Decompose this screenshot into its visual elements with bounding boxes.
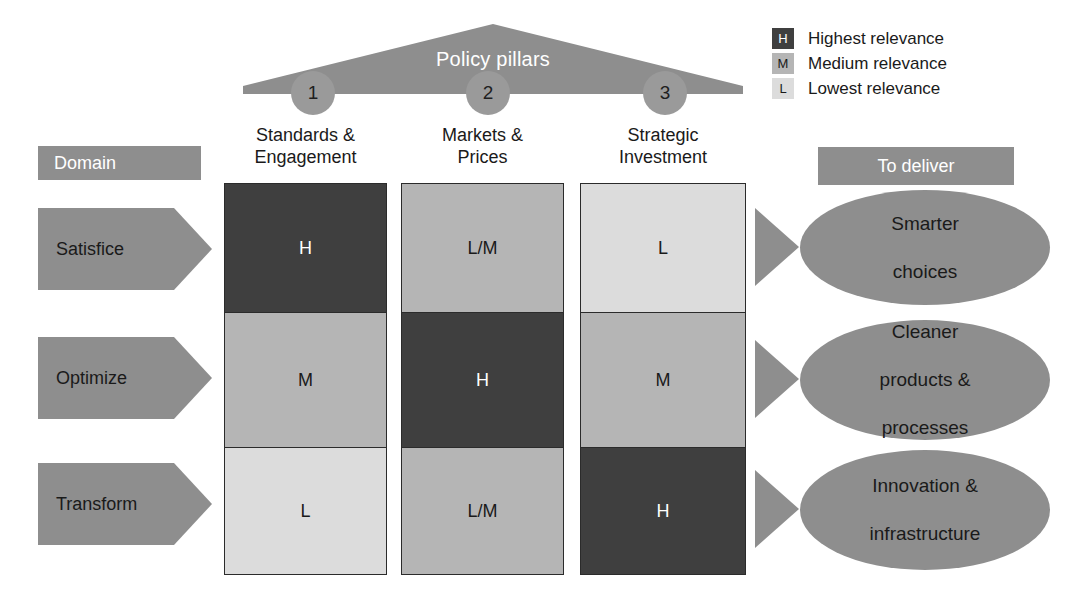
- column-header-line2: Prices: [401, 146, 564, 168]
- legend-label-medium: Medium relevance: [808, 54, 947, 74]
- matrix-cell-optimize-standards[interactable]: M: [225, 312, 386, 447]
- outcome-line1: Smarter: [863, 212, 987, 236]
- pillar-marker-3-label: 3: [660, 82, 671, 104]
- matrix-cell-value: H: [657, 501, 670, 522]
- legend-swatch-low: L: [772, 78, 794, 99]
- matrix-cell-optimize-markets[interactable]: H: [402, 312, 563, 447]
- outcome-line2: infrastructure: [842, 522, 1009, 546]
- pillar-marker-1[interactable]: 1: [291, 71, 335, 115]
- legend-key-high: H: [778, 31, 787, 46]
- flow-arrow-transform: [755, 470, 799, 548]
- relevance-legend: H Highest relevance M Medium relevance L…: [772, 26, 947, 101]
- outcome-text: Smarter choices: [835, 212, 1015, 284]
- column-header-line1: Strategic: [580, 124, 746, 146]
- domain-chevron-transform[interactable]: Transform: [38, 463, 212, 545]
- matrix-cell-value: L: [300, 501, 310, 522]
- column-header-line1: Standards &: [224, 124, 387, 146]
- matrix-cell-transform-strategic[interactable]: H: [581, 447, 745, 574]
- pillar-marker-2-label: 2: [483, 82, 494, 104]
- triangle-right-icon: [755, 340, 799, 418]
- outcome-text: Innovation & infrastructure: [814, 474, 1037, 546]
- flow-arrow-satisfice: [755, 208, 799, 286]
- legend-item-low: L Lowest relevance: [772, 76, 947, 101]
- outcome-cleaner-products-processes[interactable]: Cleaner products & processes: [800, 320, 1050, 440]
- legend-key-low: L: [779, 81, 786, 96]
- legend-item-high: H Highest relevance: [772, 26, 947, 51]
- matrix-cell-value: L/M: [467, 238, 497, 259]
- outcome-line3: processes: [852, 416, 999, 440]
- column-header-strategic-investment: Strategic Investment: [580, 124, 746, 168]
- domain-chevron-optimize[interactable]: Optimize: [38, 337, 212, 419]
- outcome-line2: products &: [852, 368, 999, 392]
- domain-header-label: Domain: [54, 153, 116, 174]
- outcome-innovation-infrastructure[interactable]: Innovation & infrastructure: [800, 450, 1050, 570]
- outcome-smarter-choices[interactable]: Smarter choices: [800, 190, 1050, 305]
- diagram-canvas: Policy pillars 1 2 3 H Highest relevance…: [0, 0, 1075, 599]
- triangle-right-icon: [755, 470, 799, 548]
- matrix-cell-value: L/M: [467, 501, 497, 522]
- legend-key-medium: M: [778, 56, 789, 71]
- flow-arrow-optimize: [755, 340, 799, 418]
- matrix-cell-value: H: [299, 238, 312, 259]
- matrix-cell-value: L: [658, 238, 668, 259]
- domain-header-bar: Domain: [38, 146, 201, 180]
- domain-chevron-satisfice[interactable]: Satisfice: [38, 208, 212, 290]
- matrix-column-markets-prices: L/M H L/M: [401, 183, 564, 575]
- legend-label-low: Lowest relevance: [808, 79, 940, 99]
- matrix-cell-satisfice-markets[interactable]: L/M: [402, 184, 563, 312]
- pillar-marker-1-label: 1: [308, 82, 319, 104]
- matrix-cell-satisfice-strategic[interactable]: L: [581, 184, 745, 312]
- domain-chevron-transform-label: Transform: [56, 494, 137, 515]
- outcome-line2: choices: [863, 260, 987, 284]
- matrix-cell-transform-standards[interactable]: L: [225, 447, 386, 574]
- outcome-line1: Cleaner: [852, 320, 999, 344]
- column-header-line2: Investment: [580, 146, 746, 168]
- domain-chevron-optimize-label: Optimize: [56, 368, 127, 389]
- matrix-cell-value: M: [656, 370, 671, 391]
- matrix-cell-value: H: [476, 370, 489, 391]
- outcome-text: Cleaner products & processes: [824, 320, 1027, 440]
- triangle-right-icon: [755, 208, 799, 286]
- matrix-cell-value: M: [298, 370, 313, 391]
- domain-chevron-satisfice-label: Satisfice: [56, 239, 124, 260]
- legend-swatch-medium: M: [772, 53, 794, 74]
- pillar-marker-3[interactable]: 3: [643, 71, 687, 115]
- column-header-standards-engagement: Standards & Engagement: [224, 124, 387, 168]
- matrix-column-standards-engagement: H M L: [224, 183, 387, 575]
- column-header-markets-prices: Markets & Prices: [401, 124, 564, 168]
- matrix-cell-optimize-strategic[interactable]: M: [581, 312, 745, 447]
- deliver-header-bar: To deliver: [818, 147, 1014, 185]
- matrix-cell-transform-markets[interactable]: L/M: [402, 447, 563, 574]
- matrix-column-strategic-investment: L M H: [580, 183, 746, 575]
- policy-pillars-title: Policy pillars: [243, 48, 743, 71]
- legend-swatch-high: H: [772, 28, 794, 49]
- column-header-line1: Markets &: [401, 124, 564, 146]
- legend-item-medium: M Medium relevance: [772, 51, 947, 76]
- pillar-marker-2[interactable]: 2: [466, 71, 510, 115]
- legend-label-high: Highest relevance: [808, 29, 944, 49]
- matrix-cell-satisfice-standards[interactable]: H: [225, 184, 386, 312]
- column-header-line2: Engagement: [224, 146, 387, 168]
- deliver-header-label: To deliver: [877, 156, 954, 177]
- outcome-line1: Innovation &: [842, 474, 1009, 498]
